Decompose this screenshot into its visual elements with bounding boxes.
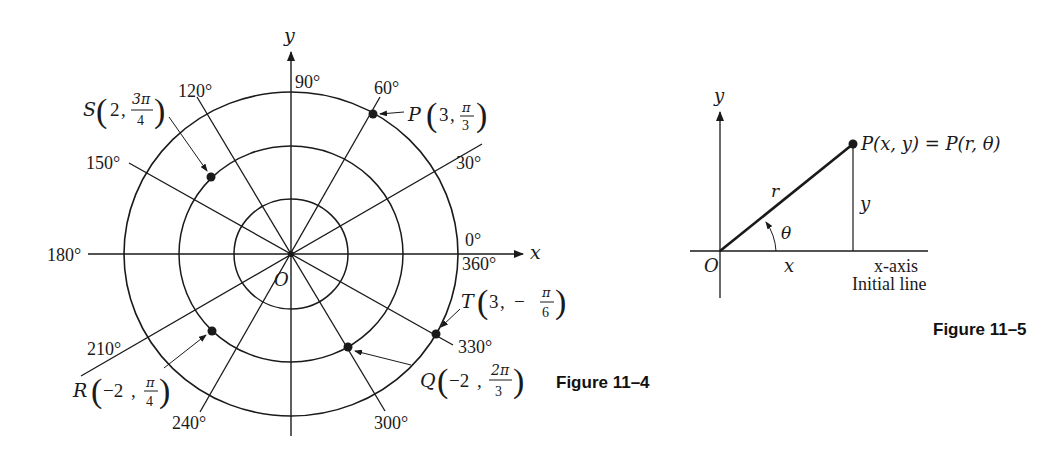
point-Q-dot xyxy=(344,343,353,352)
point-Q-pointer xyxy=(355,351,411,365)
point-T-dot xyxy=(432,330,441,339)
paren-right: ) xyxy=(513,362,524,400)
paren-left: ( xyxy=(96,92,107,130)
point-P-name: P xyxy=(407,103,422,125)
point-T-r: 3 xyxy=(489,291,499,312)
point-P-theta-num: π xyxy=(461,100,471,115)
point-S-theta-num: 3π xyxy=(132,91,151,107)
fig5-theta-label: θ xyxy=(781,223,791,243)
ray-30-210 xyxy=(81,144,482,376)
fig5-origin-label: O xyxy=(704,255,719,276)
point-P-r: 3 xyxy=(439,104,449,125)
angle-label-60: 60° xyxy=(374,78,399,98)
point-Q-r: −2 xyxy=(449,370,469,391)
angle-label-90: 90° xyxy=(295,72,320,92)
comma: , xyxy=(450,104,455,125)
fig5-point-P-dot xyxy=(849,140,858,149)
angle-label-300: 300° xyxy=(374,413,408,433)
paren-left: ( xyxy=(477,283,488,321)
x-axis-label: x xyxy=(530,241,541,263)
comma: , xyxy=(477,370,482,391)
point-Q-theta-num: 2π xyxy=(490,362,510,378)
figure-canvas: y x O 90° 60° 120° 30° 150° 180° 0° 360°… xyxy=(0,0,1060,461)
figure-11-4-caption: Figure 11–4 xyxy=(556,373,650,392)
point-T-name: T xyxy=(461,290,475,312)
paren-right: ) xyxy=(476,96,487,134)
point-T-theta-den: 6 xyxy=(542,305,549,320)
comma: , xyxy=(131,380,136,401)
point-S-pointer xyxy=(169,117,207,171)
paren-right: ) xyxy=(154,92,165,130)
point-T-sign: − xyxy=(514,291,525,312)
point-P: P ( 3 , π 3 ) xyxy=(369,96,488,134)
point-S-r: 2 xyxy=(110,99,120,120)
angle-label-240: 240° xyxy=(172,413,206,433)
paren-left: ( xyxy=(91,372,102,410)
angle-label-30: 30° xyxy=(456,153,481,173)
angle-label-180: 180° xyxy=(47,245,81,265)
point-T: T ( 3 , − π 6 ) xyxy=(432,283,567,339)
comma: , xyxy=(121,99,126,120)
comma: , xyxy=(500,291,505,312)
origin-dot xyxy=(288,251,294,257)
fig5-y-label: y xyxy=(859,193,871,214)
point-R-pointer xyxy=(164,335,206,368)
angle-label-150: 150° xyxy=(86,153,120,173)
point-R-r: −2 xyxy=(103,380,123,401)
point-P-pointer xyxy=(380,112,404,114)
point-T-theta-num: π xyxy=(541,285,551,300)
angle-label-0: 0° xyxy=(465,230,481,250)
point-Q-name: Q xyxy=(420,369,436,391)
point-R-theta-den: 4 xyxy=(146,394,153,409)
point-S-theta-den: 4 xyxy=(137,113,144,128)
angle-label-120: 120° xyxy=(178,81,212,101)
point-S-dot xyxy=(207,173,216,182)
paren-left: ( xyxy=(426,96,437,134)
point-S-name: S xyxy=(83,98,96,120)
fig5-initial-line-label: Initial line xyxy=(852,274,926,294)
point-Q: Q ( −2 , 2π 3 ) xyxy=(344,343,525,401)
point-R-dot xyxy=(208,327,217,336)
figure-11-5-caption: Figure 11–5 xyxy=(933,320,1027,339)
point-R-theta-num: π xyxy=(145,375,155,390)
angle-label-360: 360° xyxy=(462,254,496,274)
point-R-name: R xyxy=(72,379,87,401)
y-axis-label: y xyxy=(283,24,295,46)
angle-label-330: 330° xyxy=(458,337,492,357)
point-P-dot xyxy=(369,110,378,119)
polar-rectangular-figure: y O r θ x y P(x, y) = P(r, θ) x-axis Ini… xyxy=(690,85,1027,339)
angle-label-210: 210° xyxy=(87,339,121,359)
fig5-theta-arc xyxy=(766,222,776,251)
fig5-y-axis-label: y xyxy=(713,85,725,106)
fig5-x-label: x xyxy=(784,255,794,276)
fig5-r-label: r xyxy=(771,181,780,201)
paren-left: ( xyxy=(437,362,448,400)
paren-right: ) xyxy=(159,372,170,410)
point-Q-theta-den: 3 xyxy=(495,384,502,399)
fig5-point-label: P(x, y) = P(r, θ) xyxy=(860,133,1001,154)
paren-right: ) xyxy=(555,283,566,321)
polar-grid-figure: y x O 90° 60° 120° 30° 150° 180° 0° 360°… xyxy=(47,24,650,436)
fig5-x-axis-label: x-axis xyxy=(874,256,918,276)
origin-label: O xyxy=(274,269,289,290)
point-P-theta-den: 3 xyxy=(462,118,469,133)
